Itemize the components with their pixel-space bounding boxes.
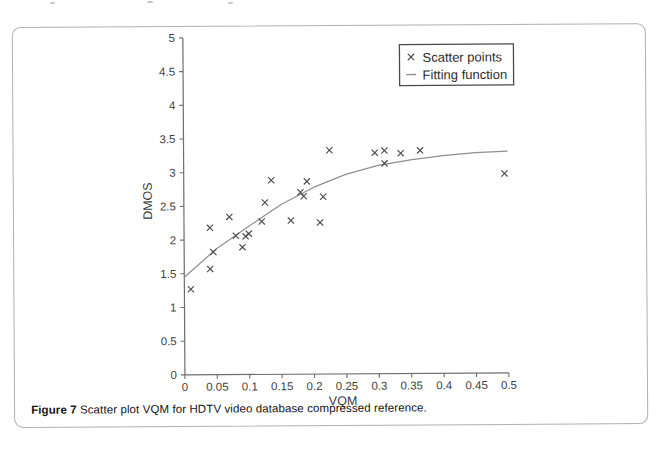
x-tick-label: 0.3	[371, 380, 387, 392]
scatter-point	[268, 177, 274, 183]
scatter-plot: 00.511.522.533.544.5500.050.10.150.20.25…	[0, 0, 663, 449]
scatter-point	[398, 150, 404, 156]
scatter-point	[381, 147, 387, 153]
x-tick-label: 0.25	[336, 380, 358, 392]
y-tick-label: 3	[169, 167, 175, 179]
scatter-point	[207, 225, 213, 231]
y-tick-label: 4.5	[159, 66, 175, 78]
y-tick-label: 0.5	[161, 335, 177, 347]
y-tick-label: 2	[170, 234, 176, 246]
scatter-point	[304, 178, 310, 184]
scatter-point	[501, 170, 507, 176]
scatter-point	[326, 147, 332, 153]
scatter-point	[317, 219, 323, 225]
x-tick-label: 0.4	[436, 379, 453, 391]
x-tick-label: 0.35	[401, 379, 423, 391]
legend-label: Scatter points	[422, 49, 502, 64]
scatter-point	[320, 194, 326, 200]
scanned-page: 00.511.522.533.544.5500.050.10.150.20.25…	[0, 0, 663, 449]
x-tick-label: 0.1	[242, 380, 258, 392]
x-tick-label: 0.5	[501, 379, 517, 391]
scatter-point	[262, 199, 268, 205]
y-tick-label: 5	[168, 32, 174, 44]
x-tick-label: 0.45	[465, 379, 487, 391]
scatter-point	[207, 266, 213, 272]
figure-caption-label: Figure 7	[31, 404, 77, 416]
scatter-point	[188, 286, 194, 292]
scatter-point	[210, 249, 216, 255]
x-tick-label: 0.05	[206, 381, 228, 393]
y-tick-label: 1.5	[160, 268, 176, 280]
figure-7-panel: 00.511.522.533.544.5500.050.10.150.20.25…	[0, 0, 663, 449]
scatter-point	[239, 244, 245, 250]
y-tick-label: 3.5	[159, 133, 175, 145]
scatter-point	[301, 193, 307, 199]
scatter-point	[259, 218, 265, 224]
scatter-point	[372, 150, 378, 156]
y-tick-label: 1	[170, 302, 176, 314]
scatter-point	[233, 233, 239, 239]
legend-label: Fitting function	[423, 67, 508, 83]
x-tick-label: 0.15	[271, 380, 293, 392]
y-tick-label: 2.5	[160, 200, 176, 212]
figure-caption-text: Scatter plot VQM for HDTV video database…	[77, 401, 427, 415]
x-tick-label: 0	[182, 381, 188, 393]
scatter-point	[288, 217, 294, 223]
scatter-point	[417, 147, 423, 153]
y-tick-label: 0	[170, 369, 176, 381]
scatter-point	[226, 214, 232, 220]
scatter-point	[246, 231, 252, 237]
y-axis-label: DMOS	[141, 182, 155, 220]
x-tick-label: 0.2	[307, 380, 323, 392]
y-tick-label: 4	[169, 99, 176, 111]
